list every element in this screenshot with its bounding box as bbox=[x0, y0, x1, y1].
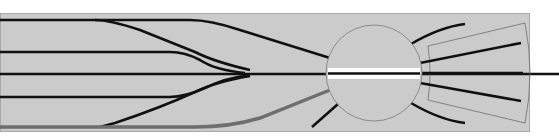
track-plan-canvas bbox=[0, 0, 559, 138]
track-plan-diagram: Track plan: yard fan with turntable and … bbox=[0, 0, 559, 138]
